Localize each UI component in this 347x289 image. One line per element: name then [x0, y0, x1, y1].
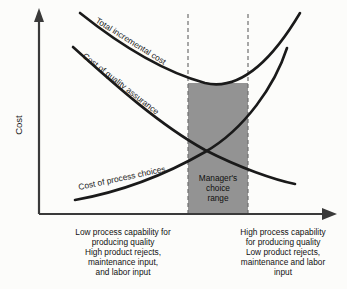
x-axis-left-label-line-3: High product rejects,	[85, 247, 161, 257]
band-label-line-3: range	[207, 193, 229, 203]
x-axis-left-label-line-2: producing quality	[92, 237, 156, 247]
x-axis-right-label-line-4: maintenance and labor	[241, 257, 326, 267]
x-axis-right-label-line-3: Low product rejects,	[246, 247, 320, 257]
figure-container: Cost Total incremental cost Cost of qual…	[0, 0, 347, 289]
band-label-line-1: Manager's	[199, 173, 237, 183]
y-axis-arrowhead	[34, 8, 44, 22]
x-axis-right-label-line-1: High process capability	[240, 227, 326, 237]
x-axis-left-label-line-4: maintenance input,	[88, 257, 158, 267]
curve-label-total-incremental-cost: Total incremental cost	[94, 15, 169, 67]
x-axis-right-label-line-2: for producing quality	[246, 237, 322, 247]
y-axis-title: Cost	[13, 115, 24, 135]
x-axis-left-label-line-1: Low process capability for	[75, 227, 171, 237]
x-axis-right-label-line-5: input	[274, 267, 293, 277]
x-axis-arrowhead	[322, 208, 337, 220]
x-axis-left-label-line-5: and labor input	[96, 267, 152, 277]
band-label-line-2: choice	[206, 183, 230, 193]
cost-tradeoff-chart: Cost Total incremental cost Cost of qual…	[0, 0, 347, 289]
